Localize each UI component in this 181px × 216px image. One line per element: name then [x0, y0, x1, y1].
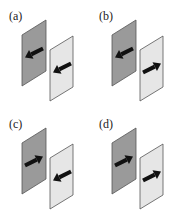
- panel-c: (c): [0, 108, 90, 216]
- plates-diagram: [90, 108, 180, 216]
- plates-diagram: [0, 108, 90, 216]
- panel-d: (d): [90, 108, 180, 216]
- panel-b: (b): [90, 0, 180, 108]
- plates-diagram: [0, 0, 90, 108]
- plates-diagram: [90, 0, 180, 108]
- panel-a: (a): [0, 0, 90, 108]
